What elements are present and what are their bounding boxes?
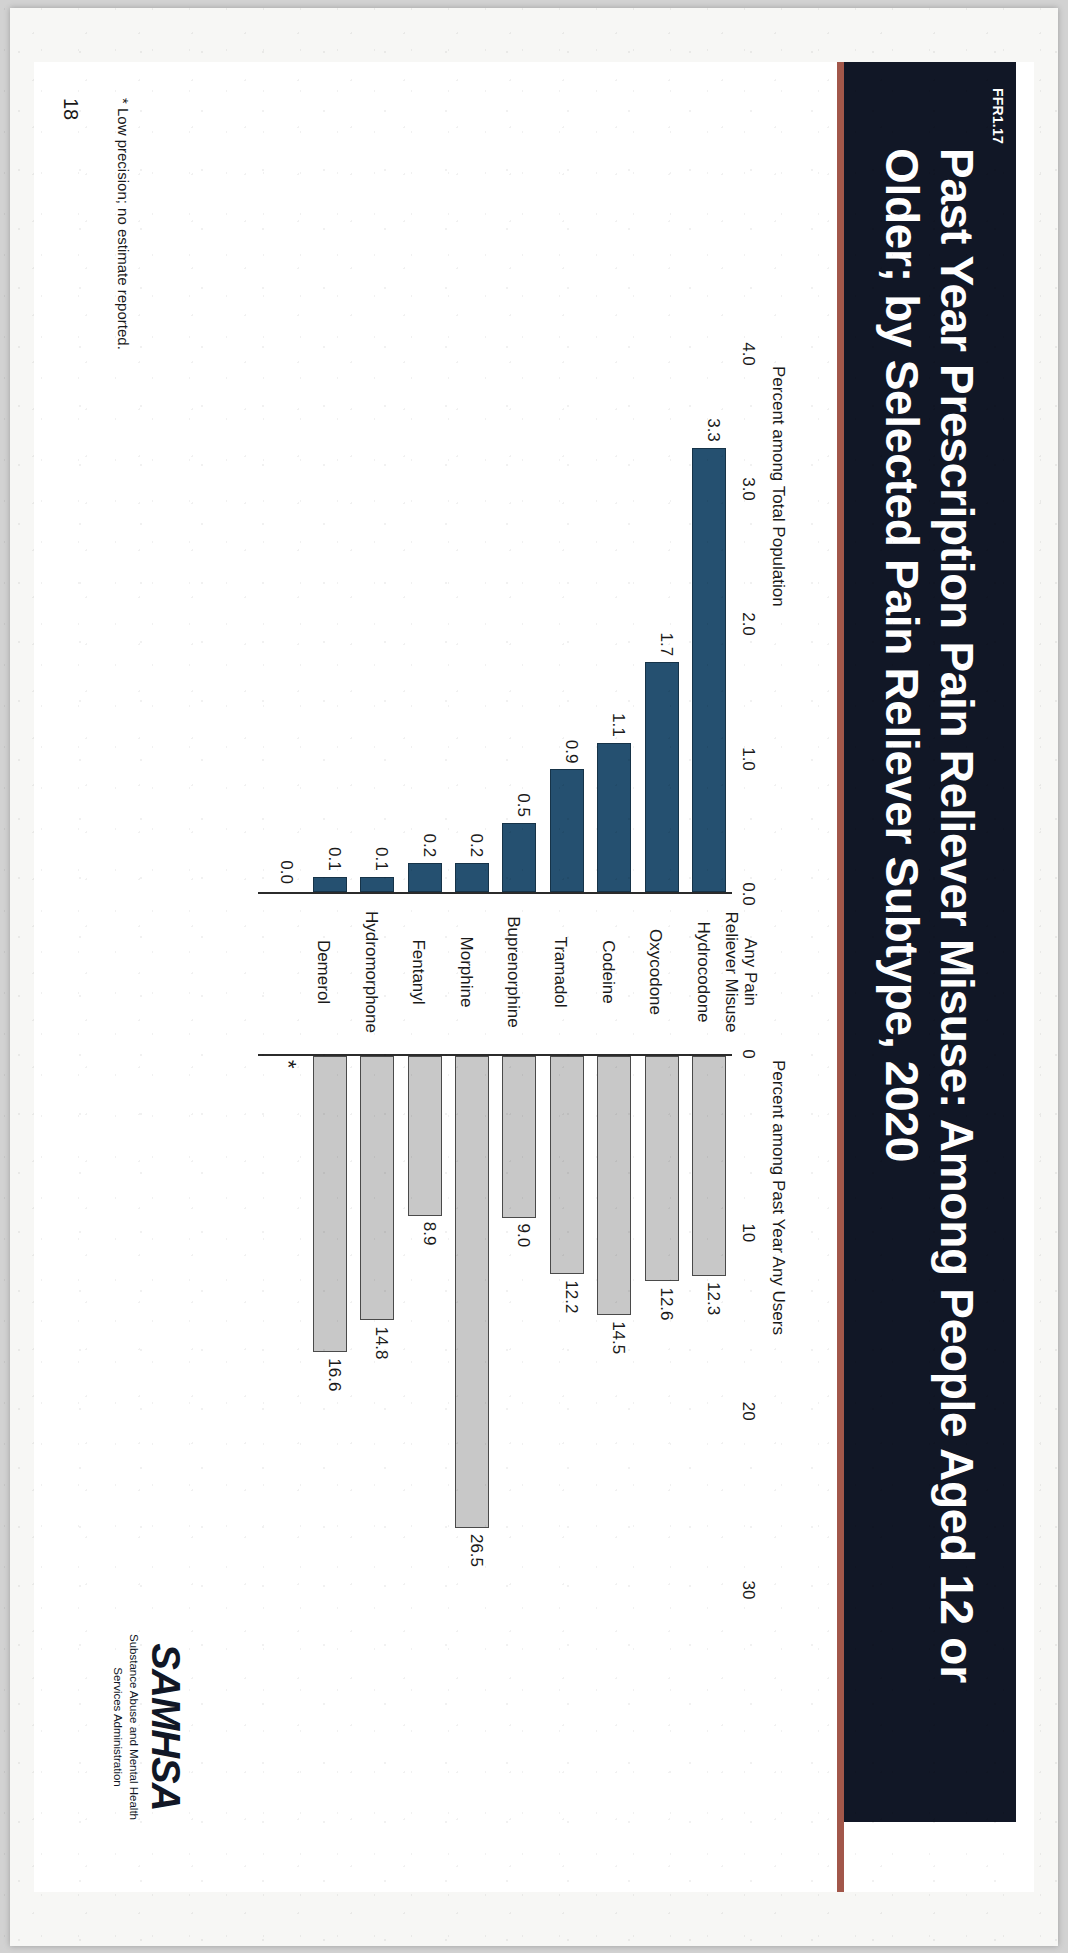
- bar-value-left: 0.0: [276, 860, 296, 884]
- table-row: 12.2: [546, 1054, 590, 1590]
- right-tick: 10: [738, 1223, 758, 1242]
- bar-value-right: 16.6: [324, 1358, 344, 1391]
- right-plot: 12.312.614.512.29.026.58.914.816.6*: [258, 1054, 732, 1590]
- table-row: 14.5: [593, 1054, 637, 1590]
- table-row: 26.5: [451, 1054, 495, 1590]
- left-axis-title: Percent among Total Population: [768, 366, 788, 607]
- table-row: 0.0: [261, 354, 305, 894]
- bar-value-right: 14.8: [371, 1326, 391, 1359]
- table-row: 8.9: [404, 1054, 448, 1590]
- samhsa-logo: SAMHSA Substance Abuse and Mental Health…: [110, 1602, 188, 1852]
- scanned-page: FFR1.17 Past Year Prescription Pain Reli…: [0, 0, 1068, 1953]
- samhsa-subtitle-line1: Substance Abuse and Mental Health: [127, 1602, 141, 1852]
- bar-value-right: 12.6: [656, 1287, 676, 1320]
- no-estimate-asterisk: *: [275, 1060, 301, 1069]
- right-tick: 0: [738, 1049, 758, 1058]
- bar-right: [692, 1056, 726, 1276]
- right-axis-title: Percent among Past Year Any Users: [768, 1060, 788, 1335]
- samhsa-wordmark: SAMHSA: [143, 1602, 188, 1852]
- bar-right: [645, 1056, 679, 1281]
- bar-right: [550, 1056, 584, 1274]
- bar-right: [455, 1056, 489, 1528]
- page-number: 18: [59, 98, 82, 120]
- table-row: 12.3: [688, 1054, 732, 1590]
- right-tick: 30: [738, 1580, 758, 1599]
- bar-value-right: 26.5: [466, 1533, 486, 1566]
- bar-value-right: 12.2: [561, 1280, 581, 1313]
- slide: FFR1.17 Past Year Prescription Pain Reli…: [34, 62, 1034, 1892]
- bar-value-right: 8.9: [419, 1221, 439, 1245]
- ffr-label: FFR1.17: [990, 88, 1006, 144]
- bar-value-right: 14.5: [608, 1321, 628, 1354]
- rotated-slide-wrapper: FFR1.17 Past Year Prescription Pain Reli…: [0, 0, 1068, 1953]
- bar-right: [597, 1056, 631, 1315]
- bar-right: [313, 1056, 347, 1352]
- right-panel: 0102030 12.312.614.512.29.026.58.914.816…: [258, 1054, 758, 1590]
- right-axis-ticks: 0102030: [732, 1054, 758, 1590]
- chart: Percent among Total Population Percent a…: [228, 354, 788, 1590]
- table-row: *: [261, 1054, 305, 1590]
- bar-right: [360, 1056, 394, 1320]
- samhsa-subtitle-line2: Services Administration: [110, 1602, 124, 1852]
- bar-right: [408, 1056, 442, 1216]
- accent-divider: [837, 62, 844, 1892]
- title-band: FFR1.17 Past Year Prescription Pain Reli…: [844, 62, 1016, 1822]
- bar-right: [502, 1056, 536, 1218]
- footnote: * Low precision; no estimate reported.: [115, 98, 132, 350]
- bar-value-right: 12.3: [703, 1282, 723, 1315]
- table-row: 9.0: [498, 1054, 542, 1590]
- table-row: 12.6: [641, 1054, 685, 1590]
- page-title: Past Year Prescription Pain Reliever Mis…: [874, 148, 984, 1788]
- table-row: 16.6: [309, 1054, 353, 1590]
- table-row: 14.8: [356, 1054, 400, 1590]
- bar-value-right: 9.0: [513, 1223, 533, 1247]
- right-tick: 20: [738, 1401, 758, 1420]
